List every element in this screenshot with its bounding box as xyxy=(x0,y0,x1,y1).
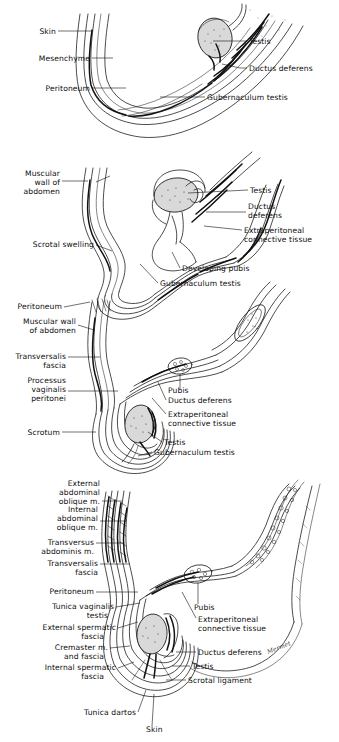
panel-2-label-extraperitoneal-connective-tissue-line1: Extraperitoneal xyxy=(244,226,304,235)
panel-4-label-eo-line1: External xyxy=(68,479,100,488)
panel-1: Skin Mesenchyme Peritoneum Testis Ductus… xyxy=(39,4,313,137)
panel-3: Peritoneum Muscular wall of abdomen Tran… xyxy=(15,282,290,474)
panel-3-label-pubis: Pubis xyxy=(168,386,189,395)
panel-4-label-cremaster-line1: Cremaster m. xyxy=(55,643,108,652)
panel-2-label-muscular-wall-of-abdomen-line1: Muscular xyxy=(25,169,61,178)
panel-2-label-testis: Testis xyxy=(249,186,272,195)
panel-3-label-extraperitoneal-line1: Extraperitoneal xyxy=(168,410,228,419)
panel-2-label-developing-pubis: Developing pubis xyxy=(182,264,250,273)
panel-1-label-testis: Testis xyxy=(248,37,271,46)
panel-3-label-extraperitoneal-line2: connective tissue xyxy=(168,419,236,428)
panel-4-label-int-spermatic-line1: Internal spermatic xyxy=(45,663,116,672)
panel-1-label-gubernaculum-testis: Gubernaculum testis xyxy=(207,93,288,102)
panel-4-label-peritoneum: Peritoneum xyxy=(49,587,94,596)
panel-4-label-cremaster-line2: and fascia xyxy=(64,652,104,661)
panel-3-label-scrotum: Scrotum xyxy=(28,428,60,437)
panel-1-label-skin: Skin xyxy=(39,27,56,36)
panel-3-label-transversalis-fascia-line1: Transversalis xyxy=(15,352,66,361)
panel-2-label-muscular-wall-of-abdomen-line2: wall of xyxy=(34,178,60,187)
panel-4-label-extraperitoneal-line2: connective tissue xyxy=(198,624,266,633)
panel-2-label-scrotal-swelling: Scrotal swelling xyxy=(33,240,94,249)
panel-3-label-ductus-deferens: Ductus deferens xyxy=(168,396,232,405)
panel-3-label-processus-line3: peritonei xyxy=(31,394,66,403)
panel-3-label-muscular-wall-line1: Muscular wall xyxy=(23,317,76,326)
panel-1-label-peritoneum: Peritoneum xyxy=(45,84,90,93)
panel-4-label-io-line3: oblique m. xyxy=(57,523,98,532)
panel-4-label-tunica-dartos: Tunica dartos xyxy=(83,708,136,717)
panel-4-label-ductus-deferens: Ductus deferens xyxy=(198,648,262,657)
panel-3-label-transversalis-fascia-line2: fascia xyxy=(43,361,66,370)
panel-4-label-tf-line2: fascia xyxy=(75,568,98,577)
panel-3-label-processus-line1: Processus xyxy=(28,376,66,385)
panel-2-label-extraperitoneal-connective-tissue-line2: connective tissue xyxy=(244,235,312,244)
panel-3-label-gubernaculum-testis: Gubernaculum testis xyxy=(154,448,235,457)
panel-2: Muscular wall of abdomen Scrotal swellin… xyxy=(23,152,312,319)
panel-2-label-ductus-deferens-line1: Ductus xyxy=(248,202,275,211)
panel-4-label-skin: Skin xyxy=(146,725,163,734)
panel-4-label-ta-line2: abdominis m. xyxy=(41,547,94,556)
figure-canvas: Skin Mesenchyme Peritoneum Testis Ductus… xyxy=(0,0,339,742)
panel-1-label-ductus-deferens: Ductus deferens xyxy=(249,64,313,73)
panel-4-label-tf-line1: Transversalis xyxy=(47,559,98,568)
panel-3-label-processus-line2: vaginalis xyxy=(31,385,66,394)
panel-4-label-ext-spermatic-line1: External spermatic xyxy=(43,623,116,632)
panel-4-label-testis: Testis xyxy=(191,662,214,671)
panel-2-label-gubernaculum-testis: Gubernaculum testis xyxy=(160,279,241,288)
panel-2-label-ductus-deferens-line2: deferens xyxy=(248,211,282,220)
panel-4-label-tunica-vaginalis-line2: testis xyxy=(87,611,108,620)
artist-signature: Mermet xyxy=(265,639,292,655)
panel-4-label-pubis: Pubis xyxy=(194,603,215,612)
panel-4: External abdominal oblique m. Internal a… xyxy=(41,479,320,734)
panel-3-label-muscular-wall-line2: of abdomen xyxy=(29,326,76,335)
panel-3-label-testis: Testis xyxy=(163,438,186,447)
panel-4-label-scrotal-ligament: Scrotal ligament xyxy=(188,676,252,685)
panel-4-label-int-spermatic-line2: fascia xyxy=(81,672,104,681)
panel-4-label-eo-line2: abdominal xyxy=(59,488,100,497)
panel-4-label-io-line1: Internal xyxy=(68,505,98,514)
anatomical-figure: Skin Mesenchyme Peritoneum Testis Ductus… xyxy=(0,0,339,742)
panel-4-label-ta-line1: Transversus xyxy=(47,538,94,547)
panel-3-label-peritoneum: Peritoneum xyxy=(17,302,62,311)
panel-4-label-tunica-vaginalis-line1: Tunica vaginalis xyxy=(51,602,114,611)
panel-2-label-muscular-wall-of-abdomen-line3: abdomen xyxy=(23,187,60,196)
panel-4-label-extraperitoneal-line1: Extraperitoneal xyxy=(198,615,258,624)
panel-4-label-io-line2: abdominal xyxy=(57,514,98,523)
panel-4-label-ext-spermatic-line2: fascia xyxy=(81,632,104,641)
panel-1-label-mesenchyme: Mesenchyme xyxy=(39,54,90,63)
